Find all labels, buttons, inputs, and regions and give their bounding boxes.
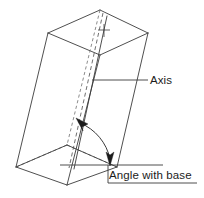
bottom-face-edge-back-left-visible [16, 145, 67, 167]
prism-axis [69, 13, 107, 169]
geometry-diagram: Axis Angle with base [0, 0, 204, 198]
angle-arrow-head-base [106, 152, 114, 166]
top-face-edge-left-front [48, 33, 100, 55]
lateral-edge-right [117, 33, 148, 167]
hidden-edges [16, 10, 117, 167]
angle-with-base-label: Angle with base [109, 169, 192, 182]
top-face-edge-back-left [48, 10, 100, 33]
axis-dashed-line [69, 13, 103, 168]
angle-arc [80, 123, 110, 159]
lateral-edge-front [67, 55, 100, 185]
top-face-edge-front-right [100, 33, 148, 55]
lateral-edge-left [16, 33, 48, 167]
angle-arc-group [76, 118, 114, 166]
axis-label: Axis [150, 74, 172, 87]
top-face-edge-right-back [100, 10, 148, 33]
bottom-face-edge-left-front [16, 167, 67, 185]
axis-solid-line [74, 16, 107, 169]
